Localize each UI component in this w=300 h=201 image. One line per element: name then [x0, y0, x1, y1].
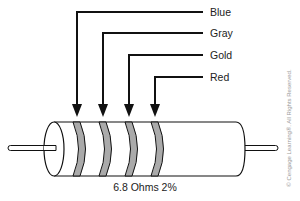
arrowheads	[72, 104, 160, 117]
band-label-red: Red	[210, 71, 229, 83]
band-label-blue: Blue	[210, 6, 231, 18]
arrow-down-icon	[150, 104, 160, 117]
resistor-diagram: Blue Gray Gold Red 6.8 Ohms 2% © Cengage…	[0, 0, 300, 201]
arrow-down-icon	[124, 104, 134, 117]
copyright-notice: © Cengage Learning®. All Rights Reserved…	[286, 69, 292, 187]
resistance-caption: 6.8 Ohms 2%	[113, 181, 177, 193]
band-label-gold: Gold	[210, 49, 232, 61]
band-label-gray: Gray	[210, 27, 234, 39]
leader-line-blue	[77, 12, 203, 106]
leader-line-gold	[129, 55, 203, 106]
right-lead-wire	[244, 146, 278, 151]
leader-line-red	[155, 77, 203, 106]
leader-lines	[77, 12, 203, 106]
arrow-down-icon	[98, 104, 108, 117]
left-lead-wire-inner	[44, 146, 56, 151]
leader-line-gray	[103, 33, 203, 106]
arrow-down-icon	[72, 104, 82, 117]
